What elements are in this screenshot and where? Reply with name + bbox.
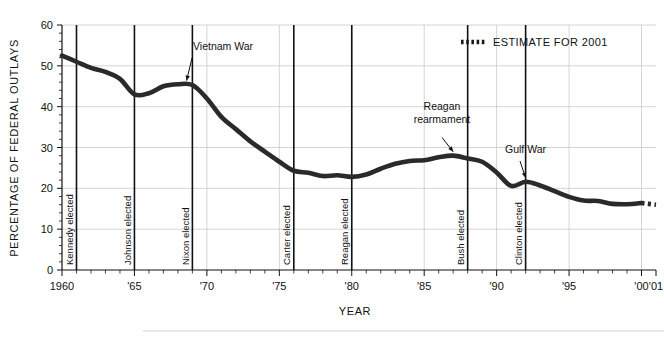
series-estimate-line xyxy=(642,203,656,205)
event-line-label: Kennedy elected xyxy=(64,194,75,265)
y-tick-label: 10 xyxy=(41,223,53,235)
x-tick-label: '90 xyxy=(489,280,503,292)
event-line-label: Reagan elected xyxy=(339,198,350,265)
event-line-label: Carter elected xyxy=(281,205,292,265)
y-tick-label: 0 xyxy=(47,264,53,276)
x-axis-title: YEAR xyxy=(339,305,371,317)
event-line-label: Nixon elected xyxy=(180,207,191,265)
y-tick-label: 60 xyxy=(41,19,53,31)
y-tick-group: 0102030405060 xyxy=(41,19,62,276)
x-tick-label: 1960 xyxy=(50,280,74,292)
x-tick-label: '75 xyxy=(272,280,286,292)
legend: ESTIMATE FOR 2001 xyxy=(461,36,608,48)
annotation-arrowhead xyxy=(522,172,526,177)
y-tick-label: 40 xyxy=(41,101,53,113)
event-line-label: Clinton elected xyxy=(513,202,524,265)
x-tick-label: '70 xyxy=(200,280,214,292)
series-group xyxy=(62,56,656,205)
y-axis-title: PERCENTAGE OF FEDERAL OUTLAYS xyxy=(8,39,20,257)
chart-container: Kennedy electedJohnson electedNixon elec… xyxy=(0,0,664,338)
x-tick-label: '80 xyxy=(345,280,359,292)
x-tick-label: '85 xyxy=(417,280,431,292)
annotation-label: Reaganrearmament xyxy=(414,100,471,125)
y-tick-label: 50 xyxy=(41,60,53,72)
event-line-label: Johnson elected xyxy=(122,196,133,265)
x-tick-label: '95 xyxy=(562,280,576,292)
gridlines-group xyxy=(62,25,656,270)
legend-label-estimate: ESTIMATE FOR 2001 xyxy=(493,36,608,48)
annotations-group: Vietnam WarReaganrearmamentGulf War xyxy=(186,40,547,178)
annotation-label: Gulf War xyxy=(505,143,547,155)
y-tick-label: 20 xyxy=(41,182,53,194)
federal-outlays-line-chart: Kennedy electedJohnson electedNixon elec… xyxy=(0,0,664,338)
x-tick-label: '65 xyxy=(127,280,141,292)
x-tick-label: '00 xyxy=(634,280,648,292)
y-tick-label: 30 xyxy=(41,142,53,154)
x-tick-label: '01 xyxy=(649,280,663,292)
annotation-arrowhead xyxy=(186,75,190,80)
x-tick-group: 1960'65'70'75'80'85'90'95'00'01 xyxy=(50,270,663,292)
event-line-label: Bush elected xyxy=(455,210,466,265)
annotation-label: Vietnam War xyxy=(193,40,254,52)
